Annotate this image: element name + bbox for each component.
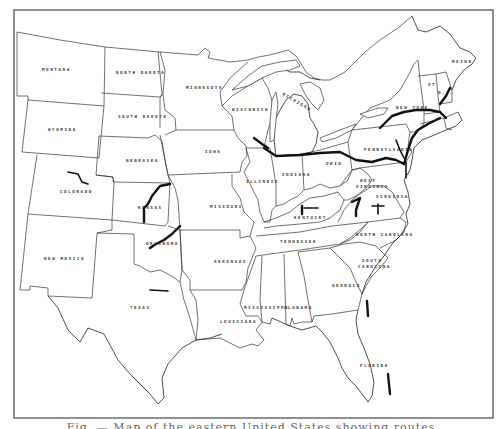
mississippi-border: [244, 256, 272, 324]
label-vermont: VT: [428, 82, 436, 87]
route-kansas: [144, 184, 170, 222]
virginia-border: [338, 186, 404, 222]
label-south-carolina-1: SOUTH: [362, 258, 383, 263]
label-north-dakota: NORTH DAKOTA: [116, 70, 165, 75]
label-new-mexico: NEW MEXICO: [44, 256, 85, 261]
label-ohio: OHIO: [326, 161, 342, 166]
label-louisiana: LOUISIANA: [220, 319, 257, 324]
colorado-border: [28, 155, 114, 220]
map-border: [14, 10, 493, 418]
texas-east-border: [180, 282, 196, 340]
state-labels: MONTANA NORTH DAKOTA SOUTH DAKOTA WYOMIN…: [42, 59, 473, 368]
label-georgia: GEORGIA: [332, 283, 361, 288]
label-illinois: ILLINOIS: [246, 179, 279, 184]
label-maine: MAINE: [452, 59, 473, 64]
map-figure: MONTANA NORTH DAKOTA SOUTH DAKOTA WYOMIN…: [0, 0, 502, 429]
nd-sd-border: [101, 93, 163, 97]
label-virginia: VIRGINIA: [376, 194, 409, 199]
texas-border: [48, 296, 222, 404]
label-alabama: ALABAMA: [284, 305, 313, 310]
label-mississippi: MISSISSIPPI: [244, 305, 289, 310]
label-iowa: IOWA: [205, 149, 221, 154]
wisconsin-border: [222, 78, 272, 148]
label-arkansas: ARKANSAS: [214, 259, 247, 264]
lake-erie: [320, 124, 356, 142]
label-oklahoma: OKLAHOMA: [146, 241, 179, 246]
route-east-coast: [404, 118, 440, 164]
route-florida: [388, 374, 390, 394]
indiana-border: [276, 154, 304, 206]
label-new-hampshire: N.H.: [438, 90, 454, 95]
label-nebraska: NEBRASKA: [126, 158, 159, 163]
route-texas: [150, 290, 168, 291]
iowa-border: [160, 130, 247, 175]
label-texas: TEXAS: [130, 305, 151, 310]
label-west-virginia-2: VIRGINIA: [356, 184, 389, 189]
lake-ontario: [360, 108, 388, 118]
figure-caption-text: Fig. — Map of the eastern United States …: [0, 422, 502, 429]
route-colorado: [68, 172, 88, 184]
label-wisconsin: WISCONSIN: [232, 107, 269, 112]
oklahoma-border: [97, 226, 182, 282]
label-indiana: INDIANA: [282, 172, 311, 177]
lake-superior: [232, 60, 300, 90]
illinois-border: [244, 148, 276, 222]
sd-ne-border: [99, 135, 162, 141]
label-north-carolina: NORTH CAROLINA: [356, 232, 414, 237]
figure-caption: Fig. — Map of the eastern United States …: [0, 421, 502, 429]
label-montana: MONTANA: [42, 67, 71, 72]
label-south-dakota: SOUTH DAKOTA: [118, 114, 167, 119]
florida-coast: [272, 310, 374, 402]
label-west-virginia-1: WEST: [360, 178, 376, 183]
label-florida: FLORIDA: [360, 363, 389, 368]
minnesota-border: [160, 52, 248, 130]
routes: [68, 88, 450, 394]
label-colorado: COLORADO: [60, 189, 93, 194]
us-map: MONTANA NORTH DAKOTA SOUTH DAKOTA WYOMIN…: [0, 0, 502, 429]
ohio-border: [302, 142, 352, 190]
label-kansas: KANSAS: [138, 205, 163, 210]
route-west-virginia: [352, 198, 360, 216]
canada-border: [17, 16, 412, 80]
label-kentucky: KENTUCKY: [294, 215, 327, 220]
route-georgia-coast: [367, 301, 368, 316]
label-wyoming: WYOMING: [48, 127, 77, 132]
label-minnesota: MINNESOTA: [186, 85, 223, 90]
label-missouri: MISSOURI: [210, 204, 243, 209]
label-south-carolina-2: CAROLINA: [358, 264, 391, 269]
label-pennsylvania: PENNSYLVANIA: [364, 147, 413, 152]
alabama-border: [284, 252, 312, 326]
label-tennessee: TENNESSEE: [280, 239, 317, 244]
maine-coast: [412, 16, 476, 90]
route-virginia: [372, 204, 384, 214]
label-new-york: NEW YORK: [396, 105, 429, 110]
